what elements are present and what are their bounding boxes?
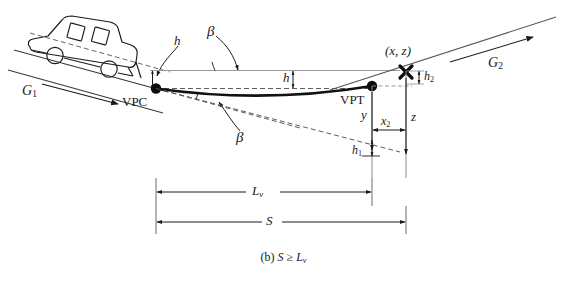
z-label: z bbox=[411, 110, 416, 123]
vpc-label: VPC bbox=[122, 95, 147, 108]
grade-in-arrow bbox=[42, 84, 118, 104]
caption-subscript: v bbox=[303, 256, 307, 265]
vpt-label: VPT bbox=[340, 93, 365, 106]
figure-caption: (b) S ≥ Lv bbox=[0, 250, 567, 265]
grade-out-line bbox=[330, 17, 556, 90]
grade-in-label: G1 bbox=[22, 84, 37, 100]
beta-upper-leader bbox=[216, 36, 238, 70]
caption-body: S ≥ L bbox=[278, 250, 303, 264]
mid-height-label: h bbox=[283, 71, 290, 84]
y-label: y bbox=[361, 108, 367, 121]
driver-height-label: h bbox=[174, 34, 181, 47]
h2-label: h2 bbox=[424, 70, 434, 84]
grade-out-label: G2 bbox=[488, 56, 503, 72]
sight-distance-label: S bbox=[266, 214, 273, 227]
caption-prefix: (b) bbox=[261, 250, 275, 264]
h1-label: h1 bbox=[352, 144, 362, 158]
beta-upper-label: β bbox=[207, 24, 214, 39]
figure-container: G1 G2 VPC VPT β β h h h1 h2 (x, z) y z x… bbox=[0, 0, 567, 290]
beta-lower-leader bbox=[219, 102, 240, 131]
beta-lower-label: β bbox=[236, 130, 243, 145]
diagram-canvas bbox=[0, 0, 567, 290]
h1-dimension bbox=[362, 140, 380, 156]
beta-upper-arc bbox=[212, 62, 215, 71]
lv-length-label: Lv bbox=[252, 184, 263, 199]
object-coordinates-label: (x, z) bbox=[385, 44, 411, 57]
x2-label: x2 bbox=[381, 115, 390, 129]
driver-eye-height-dimension bbox=[153, 46, 179, 89]
